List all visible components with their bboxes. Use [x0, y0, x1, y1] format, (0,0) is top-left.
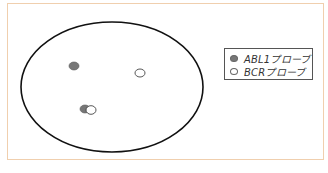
bcr-swatch-icon [230, 68, 238, 75]
nucleus-outline [21, 22, 203, 152]
nucleus-diagram [0, 0, 328, 173]
abl1-swatch-icon [230, 55, 238, 62]
legend: ABL1プローブ BCRプローブ [224, 48, 313, 80]
abl1-signal [69, 62, 79, 70]
bcr-fusion-signal [86, 106, 96, 115]
bcr-signal [135, 69, 145, 77]
legend-label: BCRプローブ [244, 64, 305, 79]
legend-item-bcr: BCRプローブ [230, 65, 305, 78]
